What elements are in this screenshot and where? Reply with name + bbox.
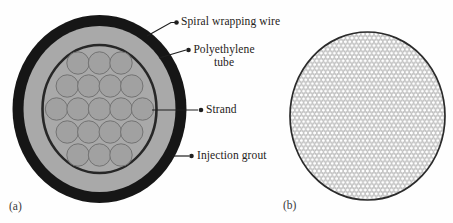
strand-circle <box>110 98 132 120</box>
strand-circle <box>88 52 110 74</box>
panel-b-graphic <box>290 32 445 200</box>
leader-line-spiral-wrapping-wire <box>147 23 176 37</box>
bullet-icon <box>189 154 194 159</box>
strand-circle <box>99 75 121 97</box>
strand-circle <box>99 121 121 143</box>
label-injection-grout: Injection grout <box>197 149 267 162</box>
panel-a-graphic <box>13 15 187 203</box>
strand-circle <box>131 98 153 120</box>
label-polyethylene-tube-line2: tube <box>192 56 256 69</box>
figure: Spiral wrapping wire Polyethylene tube S… <box>0 0 453 223</box>
strand-circle <box>45 98 67 120</box>
label-spiral-wrapping-wire: Spiral wrapping wire <box>181 15 280 28</box>
bullet-icon <box>186 48 191 53</box>
strand-circle <box>88 144 110 166</box>
label-polyethylene-tube-line1: Polyethylene <box>192 43 256 56</box>
caption-a: (a) <box>9 200 22 212</box>
bullet-icon <box>174 20 179 25</box>
strand-circle <box>67 52 89 74</box>
strand-circle <box>56 75 78 97</box>
strand-circle <box>78 75 100 97</box>
strand-circle <box>67 144 89 166</box>
wire-bundle-honeycomb-circle <box>290 32 445 200</box>
strand-circle <box>78 121 100 143</box>
strand-circle <box>121 75 143 97</box>
strand-circle <box>67 98 89 120</box>
strand-circle <box>110 52 132 74</box>
bullet-icon <box>199 108 204 113</box>
strand-circle <box>110 144 132 166</box>
strand-circle <box>121 121 143 143</box>
strand-circle <box>88 98 110 120</box>
caption-b: (b) <box>283 199 296 211</box>
label-polyethylene-tube: Polyethylene tube <box>192 43 256 69</box>
label-strand: Strand <box>206 103 237 116</box>
strand-circle <box>56 121 78 143</box>
